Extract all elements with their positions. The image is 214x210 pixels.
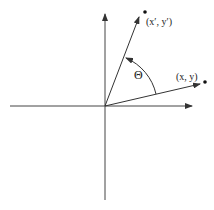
rotated-point-dot	[143, 10, 147, 14]
original-point-dot	[203, 80, 207, 84]
original-point-label: (x, y)	[176, 71, 198, 83]
rotated-vector	[105, 17, 139, 106]
rotation-diagram: (x′, y′) (x, y) Θ	[0, 0, 214, 210]
rotated-point-label: (x′, y′)	[146, 16, 172, 28]
angle-label: Θ	[134, 68, 143, 82]
original-vector	[105, 84, 200, 106]
